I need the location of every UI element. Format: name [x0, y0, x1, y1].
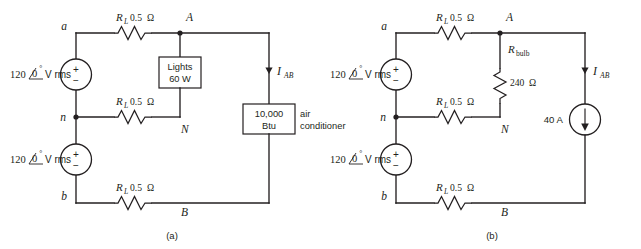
voltage-source-b-bottom-unit: V rms	[365, 154, 391, 165]
resistor-label-top-value: 0.5	[130, 12, 142, 23]
voltage-source-top-degree: °	[39, 64, 42, 73]
resistor-label-top: R L 0.5 Ω	[115, 11, 154, 26]
resistor-label-b-neutral: R L 0.5 Ω	[435, 95, 474, 110]
node-label-b-A: A	[505, 11, 514, 23]
resistor-symbol-line-top	[114, 27, 152, 40]
voltage-source-top-unit: V rms	[45, 69, 71, 80]
lights-load-line1: Lights	[168, 62, 193, 72]
resistor-label-b-bottom-subscript: L	[443, 187, 448, 196]
node-label-b-B: B	[501, 206, 508, 218]
resistor-label-neutral-symbol: R	[115, 95, 123, 107]
current-label-i-ab-subscript: AB	[283, 71, 294, 80]
resistor-label-bulb-value: 240	[510, 77, 525, 88]
resistor-label-b-top-subscript: L	[443, 17, 448, 26]
air-conditioner-side-line2: conditioner	[300, 121, 345, 131]
resistor-symbol-line-bottom	[114, 197, 152, 210]
resistor-label-b-bottom: R L 0.5 Ω	[435, 181, 474, 196]
resistor-label-top-symbol: R	[115, 11, 123, 23]
voltage-source-top-magnitude: 120	[10, 69, 26, 80]
resistor-label-bottom-unit: Ω	[147, 182, 154, 193]
voltage-source-top-plus: +	[73, 64, 79, 75]
voltage-source-b-bottom-plus: +	[393, 149, 399, 160]
resistor-label-bulb: R bulb 240 Ω	[507, 43, 536, 88]
node-label-b-N: N	[500, 123, 510, 135]
voltage-source-b-top-magnitude: 120	[330, 69, 346, 80]
panel-b-caption: (b)	[486, 230, 498, 241]
voltage-source-b-top-plus: +	[393, 64, 399, 75]
voltage-source-b-top-label: 120 0 ° V rms	[330, 64, 391, 80]
resistor-symbol-bulb	[494, 68, 506, 104]
resistor-symbol-line-b-neutral	[434, 111, 472, 124]
resistor-label-bottom-value: 0.5	[130, 182, 142, 193]
voltage-source-top-minus: −	[73, 75, 79, 86]
voltage-source-bottom-magnitude: 120	[10, 154, 26, 165]
voltage-source-bottom-minus: −	[73, 160, 79, 171]
panel-a: + − + − a n b A N B R L 0.5 Ω R	[10, 11, 345, 241]
voltage-source-bottom-plus: +	[73, 149, 79, 160]
voltage-source-bottom-angle: 0	[32, 153, 37, 164]
resistor-label-b-top: R L 0.5 Ω	[435, 11, 474, 26]
resistor-label-bulb-unit: Ω	[529, 77, 536, 88]
current-source-value-label: 40 A	[544, 114, 564, 125]
air-conditioner-line1: 10,000	[255, 109, 283, 119]
current-label-i-ab-symbol: I	[276, 64, 282, 78]
resistor-label-b-top-unit: Ω	[467, 12, 474, 23]
resistor-label-bulb-subscript: bulb	[516, 49, 530, 58]
resistor-label-b-bottom-value: 0.5	[450, 182, 462, 193]
node-label-N: N	[180, 123, 190, 135]
resistor-label-neutral-unit: Ω	[147, 96, 154, 107]
node-label-b-n: n	[380, 111, 386, 123]
current-arrow-b-i-ab	[581, 68, 588, 75]
resistor-label-top-subscript: L	[123, 17, 128, 26]
resistor-label-bottom-symbol: R	[115, 181, 123, 193]
voltage-source-bottom-unit: V rms	[45, 154, 71, 165]
node-dot-A	[177, 30, 182, 35]
node-label-b-a: a	[381, 20, 387, 32]
resistor-symbol-line-b-top	[434, 27, 472, 40]
resistor-label-b-neutral-unit: Ω	[467, 96, 474, 107]
circuit-svg: + − + − a n b A N B R L 0.5 Ω R	[0, 0, 641, 249]
resistor-label-b-bottom-unit: Ω	[467, 182, 474, 193]
circuit-figure: + − + − a n b A N B R L 0.5 Ω R	[0, 0, 641, 249]
current-label-b-i-ab-symbol: I	[592, 64, 598, 78]
resistor-label-top-unit: Ω	[147, 12, 154, 23]
node-dot-b-A	[497, 30, 502, 35]
voltage-source-b-top-degree: °	[359, 64, 362, 73]
node-label-b-b: b	[381, 190, 387, 202]
resistor-label-bulb-symbol: R	[507, 43, 515, 55]
resistor-label-b-top-value: 0.5	[450, 12, 462, 23]
current-label-b-i-ab: I AB	[592, 64, 610, 80]
air-conditioner-line2: Btu	[262, 121, 276, 131]
panel-a-caption: (a)	[166, 230, 178, 241]
panel-b: + − + − a n b A N B R L 0.5 Ω R	[330, 11, 610, 241]
resistor-label-bottom-subscript: L	[123, 187, 128, 196]
resistor-label-neutral: R L 0.5 Ω	[115, 95, 154, 110]
voltage-source-bottom-label: 120 0 ° V rms	[10, 149, 71, 165]
resistor-label-b-neutral-symbol: R	[435, 95, 443, 107]
air-conditioner-side-line1: air	[300, 109, 310, 119]
node-label-a: a	[61, 20, 67, 32]
voltage-source-b-bottom-degree: °	[359, 149, 362, 158]
node-label-B: B	[181, 206, 188, 218]
node-label-b: b	[61, 190, 67, 202]
node-label-n: n	[60, 111, 66, 123]
voltage-source-b-top-angle: 0	[352, 68, 357, 79]
voltage-source-top-angle: 0	[32, 68, 37, 79]
current-arrow-i-ab	[265, 68, 272, 75]
node-label-A: A	[185, 11, 194, 23]
voltage-source-b-top-minus: −	[393, 75, 399, 86]
voltage-source-b-bottom-label: 120 0 ° V rms	[330, 149, 391, 165]
resistor-label-b-neutral-value: 0.5	[450, 96, 462, 107]
voltage-source-top-label: 120 0 ° V rms	[10, 64, 71, 80]
resistor-label-bottom: R L 0.5 Ω	[115, 181, 154, 196]
voltage-source-bottom-degree: °	[39, 149, 42, 158]
voltage-source-b-bottom-minus: −	[393, 160, 399, 171]
voltage-source-b-top-unit: V rms	[365, 69, 391, 80]
current-label-b-i-ab-subscript: AB	[599, 71, 610, 80]
resistor-symbol-line-b-bottom	[434, 197, 472, 210]
voltage-source-b-bottom-magnitude: 120	[330, 154, 346, 165]
resistor-label-b-neutral-subscript: L	[443, 101, 448, 110]
resistor-label-neutral-value: 0.5	[130, 96, 142, 107]
resistor-label-b-top-symbol: R	[435, 11, 443, 23]
resistor-label-b-bottom-symbol: R	[435, 181, 443, 193]
